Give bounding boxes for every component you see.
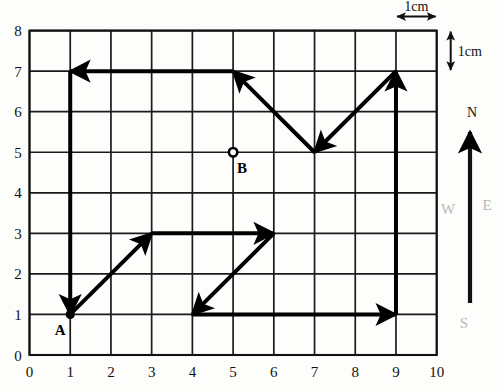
y-tick-label: 1 xyxy=(14,307,22,323)
x-tick-label: 6 xyxy=(270,364,278,380)
y-tick-label: 4 xyxy=(14,185,22,201)
y-tick-label: 5 xyxy=(14,145,22,161)
scale-label-horizontal: 1cm xyxy=(404,0,428,14)
point-marker-A xyxy=(66,310,75,319)
point-label-A: A xyxy=(55,322,66,338)
x-tick-label: 8 xyxy=(352,364,360,380)
y-tick-label: 3 xyxy=(14,226,22,242)
grid-lines xyxy=(30,31,437,355)
point-label-B: B xyxy=(237,160,247,176)
scale-indicators: 1cm1cm xyxy=(397,0,482,70)
y-tick-label: 7 xyxy=(14,64,22,80)
y-tick-label: 6 xyxy=(14,104,22,120)
x-tick-label: 5 xyxy=(229,364,237,380)
x-tick-label: 4 xyxy=(189,364,197,380)
x-tick-label: 9 xyxy=(392,364,400,380)
point-marker-B xyxy=(229,148,237,156)
compass-rose: NWES xyxy=(441,105,492,331)
y-tick-label: 0 xyxy=(14,348,22,364)
x-tick-label: 2 xyxy=(107,364,115,380)
figure-canvas: 012345678910 012345678 AB 1cm1cm NWES xyxy=(0,0,498,392)
x-tick-label: 1 xyxy=(66,364,74,380)
compass-label-west: W xyxy=(441,201,456,217)
grid-map-svg: 012345678910 012345678 AB 1cm1cm NWES xyxy=(0,0,498,392)
y-tick-label: 2 xyxy=(14,266,22,282)
x-tick-label: 0 xyxy=(26,364,34,380)
x-tick-label: 10 xyxy=(429,364,444,380)
compass-label-north: N xyxy=(467,105,477,120)
x-tick-label: 7 xyxy=(311,364,319,380)
y-axis-tick-labels: 012345678 xyxy=(14,23,22,363)
x-axis-tick-labels: 012345678910 xyxy=(26,364,444,380)
compass-label-south: S xyxy=(460,315,468,331)
compass-label-east: E xyxy=(482,197,491,213)
scale-label-vertical: 1cm xyxy=(458,44,482,59)
y-tick-label: 8 xyxy=(14,23,22,39)
x-tick-label: 3 xyxy=(148,364,156,380)
